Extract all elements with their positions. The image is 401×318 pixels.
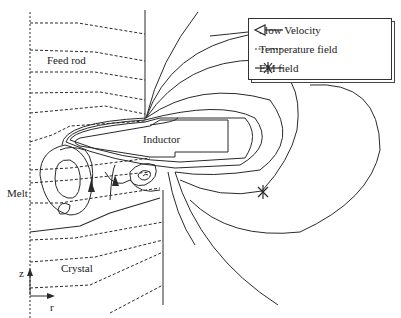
legend-item-flow-velocity: Flow Velocity: [253, 23, 321, 37]
open-arrow-line-icon: [253, 23, 285, 37]
melt-label: Melt: [7, 188, 28, 199]
legend: Flow Velocity Temperature field EM field: [248, 18, 392, 80]
axis-z-label: z: [19, 268, 24, 279]
legend-connector: [210, 32, 248, 36]
coordinate-axes: [27, 268, 55, 299]
crystal-label: Crystal: [61, 263, 93, 274]
legend-item-temperature-field: Temperature field: [253, 42, 337, 56]
dashed-line-icon: [253, 42, 285, 56]
legend-item-em-field: EM field: [253, 61, 298, 75]
inductor-label: Inductor: [143, 134, 180, 145]
axis-r-label: r: [50, 302, 54, 313]
asterisk-line-icon: [253, 61, 285, 75]
temperature-isolines-crystal: [30, 222, 163, 313]
feed-rod-label: Feed rod: [47, 55, 86, 66]
growth-interface: [30, 198, 160, 232]
